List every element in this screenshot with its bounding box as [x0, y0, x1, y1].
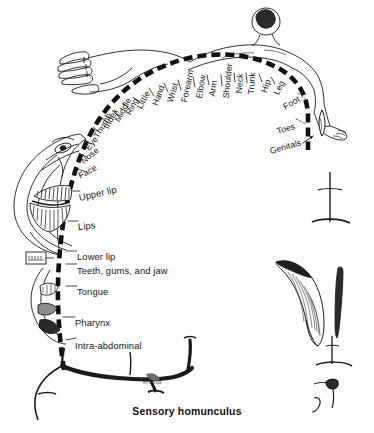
teeth-gums-inset: [26, 252, 54, 264]
artist-signature: R.P.L. 1948: [143, 382, 162, 386]
label-arm: Arm: [208, 80, 219, 97]
arm-inset-upper: [312, 172, 350, 223]
leg-thigh-inset: [276, 261, 343, 346]
genitals-inset: [319, 110, 325, 136]
sensory-homunculus-figure: LittleRingMiddleIndexThumbEyeNoseFaceUpp…: [0, 0, 374, 433]
homunculus-illustration: [0, 0, 374, 433]
label-trunk: Trunk: [247, 72, 257, 95]
label-intra-abdominal: Intra-abdominal: [75, 341, 142, 350]
tongue-pharynx-inset: [31, 268, 66, 344]
label-neck: Neck: [235, 73, 245, 94]
label-teeth-gums-and-jaw: Teeth, gums, and jaw: [77, 266, 168, 275]
label-lips: Lips: [78, 220, 96, 231]
head-face-inset: [14, 134, 86, 255]
label-leader-lines: [63, 73, 313, 340]
label-lower-lip: Lower lip: [77, 252, 115, 261]
label-tongue: Tongue: [77, 287, 108, 296]
figure-caption: Sensory homunculus: [0, 406, 374, 417]
label-pharynx: Pharynx: [75, 318, 110, 327]
